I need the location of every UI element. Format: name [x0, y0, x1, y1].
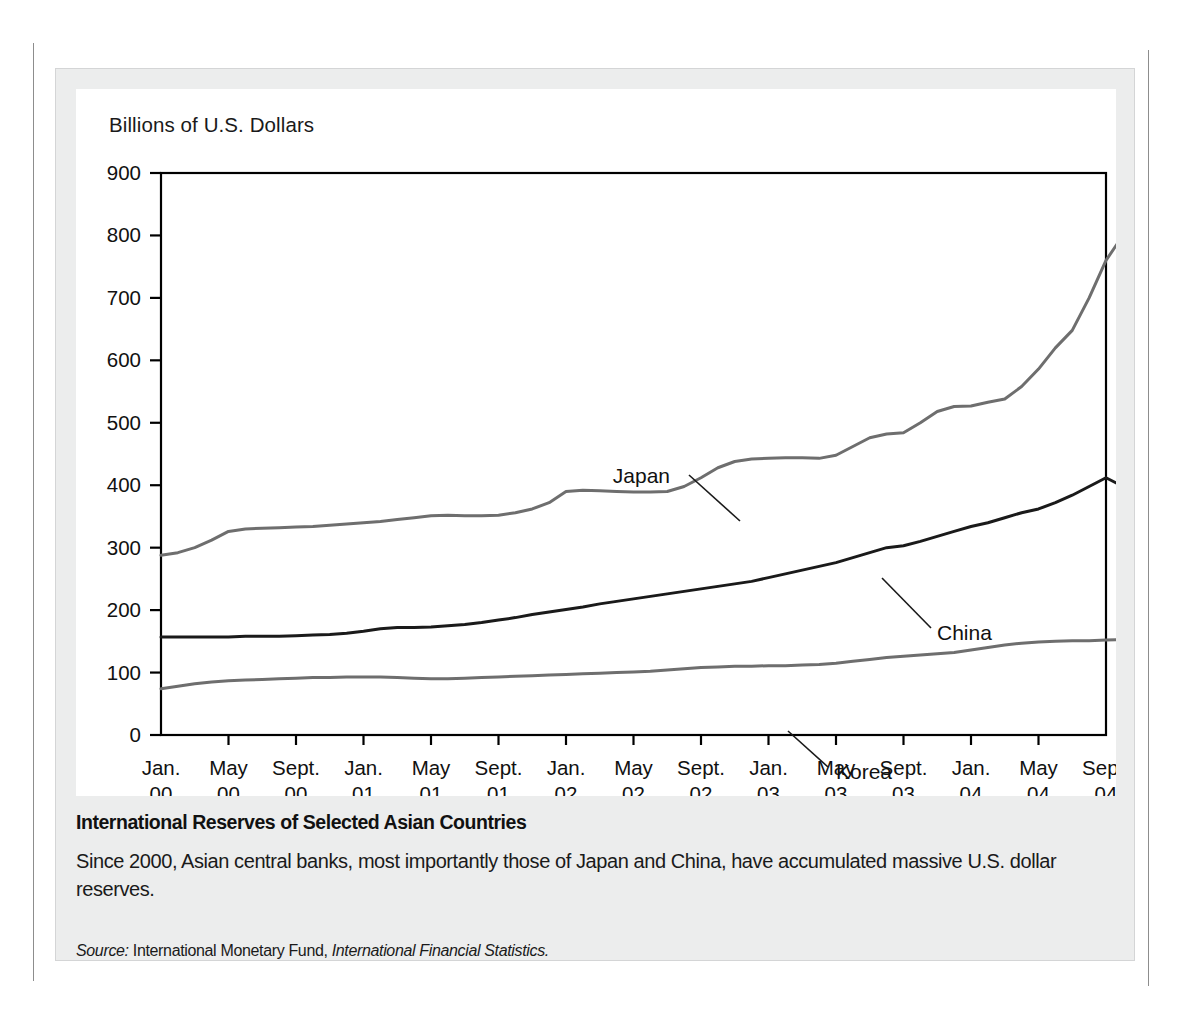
leader-line-korea	[788, 731, 828, 767]
leader-line-china	[882, 578, 931, 628]
x-axis-tick-label-year: 03	[757, 782, 780, 796]
x-axis-tick-label-month: May	[614, 756, 653, 779]
x-axis-tick-label-year: 04	[960, 782, 983, 796]
x-axis-tick-label-year: 04	[1027, 782, 1050, 796]
y-axis-tick-label: 900	[107, 161, 141, 184]
series-line-japan	[161, 226, 1116, 555]
leader-line-japan	[689, 475, 740, 521]
source-organization: International Monetary Fund,	[133, 942, 328, 959]
x-axis-tick-label-year: 03	[892, 782, 915, 796]
x-axis-tick-label-year: 02	[555, 782, 578, 796]
caption-body: Since 2000, Asian central banks, most im…	[76, 847, 1106, 904]
y-axis-tick-label: 100	[107, 661, 141, 684]
y-axis-tick-label: 800	[107, 223, 141, 246]
x-axis-tick-label-year: 01	[352, 782, 375, 796]
x-axis-tick-label-month: May	[209, 756, 248, 779]
x-axis-tick-label-month: Sept.	[475, 756, 523, 779]
x-axis-tick-label-month: Sept.	[272, 756, 320, 779]
caption-block: International Reserves of Selected Asian…	[76, 811, 1120, 904]
x-axis-tick-label-year: 02	[690, 782, 713, 796]
y-axis-tick-label: 400	[107, 473, 141, 496]
figure-panel: Billions of U.S. Dollars 010020030040050…	[55, 68, 1135, 961]
source-publication: International Financial Statistics.	[332, 942, 549, 959]
line-chart: 0100200300400500600700800900Jan.00May00S…	[76, 89, 1116, 796]
x-axis-tick-label-year: 04	[1095, 782, 1116, 796]
page-rule-left	[33, 43, 34, 981]
x-axis-tick-label-month: Jan.	[749, 756, 788, 779]
source-note: Source: International Monetary Fund, Int…	[76, 942, 549, 960]
x-axis-tick-label-month: May	[1019, 756, 1058, 779]
x-axis-tick-label-month: Sept.	[677, 756, 725, 779]
page-rule-right	[1148, 50, 1149, 986]
x-axis-tick-label-year: 00	[217, 782, 240, 796]
chart-card: Billions of U.S. Dollars 010020030040050…	[76, 89, 1116, 796]
x-axis-tick-label-year: 01	[487, 782, 510, 796]
x-axis-tick-label-month: May	[412, 756, 451, 779]
x-axis-tick-label-year: 03	[825, 782, 848, 796]
series-label-japan: Japan	[613, 464, 670, 487]
caption-title: International Reserves of Selected Asian…	[76, 811, 1120, 834]
source-prefix: Source:	[76, 942, 129, 959]
series-label-korea: Korea	[836, 760, 892, 783]
x-axis-tick-label-month: Jan.	[344, 756, 383, 779]
x-axis-tick-label-month: Jan.	[547, 756, 586, 779]
y-axis-tick-label: 500	[107, 411, 141, 434]
x-axis-tick-label-month: Jan.	[142, 756, 181, 779]
figure-page: Billions of U.S. Dollars 010020030040050…	[0, 0, 1186, 1026]
x-axis-tick-label-year: 01	[420, 782, 443, 796]
y-axis-tick-label: 0	[130, 723, 141, 746]
y-axis-tick-label: 200	[107, 598, 141, 621]
x-axis-tick-label-year: 00	[150, 782, 173, 796]
x-axis-tick-label-year: 00	[285, 782, 308, 796]
x-axis-tick-label-month: Jan.	[952, 756, 991, 779]
x-axis-tick-label-year: 02	[622, 782, 645, 796]
series-line-china	[161, 383, 1116, 637]
y-axis-tick-label: 300	[107, 536, 141, 559]
x-axis-tick-label-month: Sept.	[1082, 756, 1116, 779]
y-axis-tick-label: 700	[107, 286, 141, 309]
y-axis-tick-label: 600	[107, 348, 141, 371]
series-label-china: China	[937, 621, 992, 644]
